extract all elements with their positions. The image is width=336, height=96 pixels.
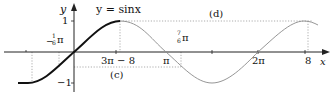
y-axis-arrow-icon xyxy=(71,3,77,11)
seven-pi-six-num: 7 xyxy=(177,30,181,36)
neg-pi-six-den: 6 xyxy=(52,40,56,46)
pi-label: π xyxy=(163,56,170,66)
two-pi-label: 2π xyxy=(252,56,265,66)
sine-graph xyxy=(0,0,336,96)
annotation-c: (c) xyxy=(110,70,123,80)
seven-pi-six-den: 6 xyxy=(177,38,181,44)
neg-pi-six-pi: π xyxy=(57,35,64,45)
y-tick-1: 1 xyxy=(62,16,68,26)
three-pi-minus-8-label: 3π − 8 xyxy=(101,56,135,66)
x-axis-label: x xyxy=(320,57,326,67)
seven-pi-six-pi: π xyxy=(182,33,189,43)
y-tick-neg1: −1 xyxy=(57,78,72,88)
y-axis-label: y xyxy=(60,4,66,15)
axes xyxy=(4,8,325,92)
curve-title: y = sinx xyxy=(96,4,141,15)
annotation-d: (d) xyxy=(209,9,223,19)
x-axis-arrow-icon xyxy=(322,49,330,55)
eight-label: 8 xyxy=(305,56,311,66)
